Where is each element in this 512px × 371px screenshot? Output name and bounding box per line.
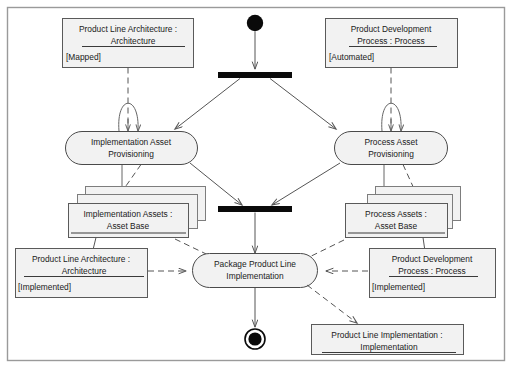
flow-proc-activity-to-join <box>272 163 340 205</box>
object-process-assets-asset-base: Process Assets : Asset Base <box>346 187 461 238</box>
flow-fork-to-implementation-asset-provisioning <box>175 79 240 130</box>
object-product-development-process-implemented: Product Development Process : Process [I… <box>370 249 496 298</box>
diagram-canvas: Product Line Architecture : Architecture… <box>0 0 512 371</box>
object-state-label: [Implemented] <box>18 282 71 292</box>
object-product-line-architecture-implemented: Product Line Architecture : Architecture… <box>16 249 148 298</box>
object-implementation-assets-asset-base: Implementation Assets : Asset Base <box>69 187 206 238</box>
activity-implementation-asset-provisioning: Implementation Asset Provisioning <box>66 132 198 165</box>
object-label-line1: Product Line Architecture : <box>32 254 130 264</box>
object-label-line2: Process : Process <box>357 36 425 46</box>
activity-process-asset-provisioning: Process Asset Provisioning <box>335 132 448 165</box>
uml-activity-diagram: Product Line Architecture : Architecture… <box>0 0 512 371</box>
activity-label-line2: Provisioning <box>368 149 414 159</box>
flow-fork-to-process-asset-provisioning <box>270 79 336 130</box>
activity-label-line1: Package Product Line <box>214 259 296 269</box>
object-label-line2: Process : Process <box>398 266 466 276</box>
object-label-line1: Product Development <box>351 24 432 34</box>
object-state-label: [Automated] <box>329 52 374 62</box>
object-state-label: [Mapped] <box>66 52 101 62</box>
activity-label-line1: Process Asset <box>364 137 418 147</box>
object-label-line1: Product Line Architecture : <box>79 24 177 34</box>
object-product-line-architecture-mapped: Product Line Architecture : Architecture… <box>63 19 194 68</box>
object-label-line2: Asset Base <box>375 221 418 231</box>
object-label-line1: Implementation Assets : <box>84 209 173 219</box>
object-label-line2: Asset Base <box>107 221 150 231</box>
activity-label-line2: Provisioning <box>108 149 154 159</box>
object-label-line2: Implementation <box>360 342 418 352</box>
initial-node <box>247 15 263 31</box>
fork-bar <box>218 72 292 78</box>
object-product-line-implementation-implementation: Product Line Implementation : Implementa… <box>312 325 464 355</box>
final-node <box>245 329 265 349</box>
object-label-line1: Product Development <box>392 254 473 264</box>
activity-package-product-line-implementation: Package Product Line Implementation <box>193 254 318 288</box>
dep-package-to-product-line-implementation <box>307 285 357 323</box>
object-label-line1: Process Assets : <box>365 209 427 219</box>
object-label-line1: Product Line Implementation : <box>331 330 442 340</box>
object-state-label: [Implemented] <box>372 282 425 292</box>
join-bar <box>218 206 292 212</box>
object-label-line2: Architecture <box>111 36 156 46</box>
object-product-development-process-automated: Product Development Process : Process [A… <box>326 19 458 68</box>
activity-label-line1: Implementation Asset <box>91 137 172 147</box>
activity-label-line2: Implementation <box>226 271 284 281</box>
object-label-line2: Architecture <box>62 266 107 276</box>
